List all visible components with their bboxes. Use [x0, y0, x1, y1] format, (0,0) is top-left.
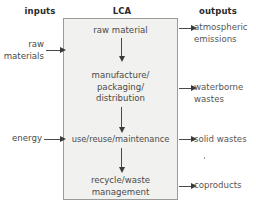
output-arrow-atmospheric-emissions: [179, 28, 191, 29]
output-arrow-solid-wastes: [179, 139, 191, 140]
input-label-energy: energy: [0, 133, 42, 145]
column-header-lca: LCA: [92, 6, 152, 16]
output-atmospheric-line-2: emissions: [194, 34, 248, 46]
stage-manufacture-line-3: distribution: [63, 93, 178, 105]
stage-raw-material-label: raw material: [93, 25, 147, 35]
input-arrow-raw-materials: [46, 50, 60, 51]
connector-arrow-down-1: [121, 38, 122, 57]
connector-arrow-down-3: [121, 148, 122, 168]
stage-manufacture-line-2: packaging/: [63, 82, 178, 94]
stage-recycle-line-2: management: [63, 187, 178, 199]
output-waterborne-line-2: wastes: [194, 94, 243, 106]
output-solid-wastes-line-1: solid wastes: [194, 134, 247, 146]
output-label-waterborne-wastes: waterborne wastes: [194, 82, 243, 105]
column-header-inputs: inputs: [10, 6, 70, 16]
stage-use-reuse-maintenance: use/reuse/maintenance: [63, 134, 178, 146]
output-atmospheric-line-1: atmospheric: [194, 22, 248, 34]
output-arrow-waterborne-wastes: [179, 88, 191, 89]
output-waterborne-line-1: waterborne: [194, 82, 243, 94]
output-label-solid-wastes: solid wastes: [194, 134, 247, 146]
column-header-outputs: outputs: [188, 6, 248, 16]
input-energy-line-1: energy: [0, 133, 42, 145]
stage-use-reuse-label: use/reuse/maintenance: [72, 134, 170, 144]
lca-diagram: inputs LCA outputs raw material manufact…: [0, 0, 256, 213]
output-coproducts-line-1: coproducts: [194, 180, 242, 192]
input-arrow-energy: [44, 139, 60, 140]
connector-arrow-down-2: [121, 107, 122, 128]
output-arrow-coproducts: [179, 186, 191, 187]
stage-manufacture-line-1: manufacture/: [63, 70, 178, 82]
input-label-raw-materials: raw materials: [0, 39, 44, 62]
output-label-coproducts: coproducts: [194, 180, 242, 192]
stage-manufacture-packaging-distribution: manufacture/ packaging/ distribution: [63, 70, 178, 105]
stage-raw-material: raw material: [63, 25, 178, 37]
input-raw-materials-line-1: raw: [0, 39, 44, 51]
input-raw-materials-line-2: materials: [0, 51, 44, 63]
stage-recycle-waste-management: recycle/waste management: [63, 175, 178, 198]
output-label-atmospheric-emissions: atmospheric emissions: [194, 22, 248, 45]
scan-artifact-speck: [204, 157, 205, 159]
stage-recycle-line-1: recycle/waste: [63, 175, 178, 187]
